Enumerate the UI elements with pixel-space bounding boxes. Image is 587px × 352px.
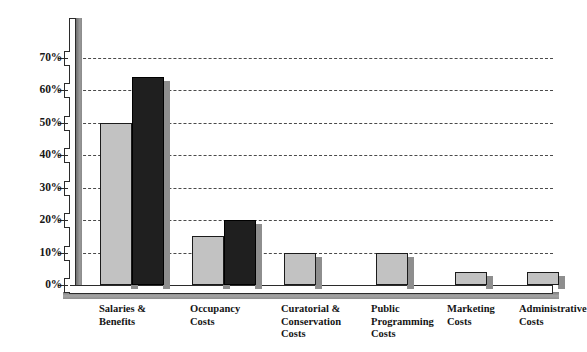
bar-curatorial-conservation-costs-series-1[interactable] [284,253,316,285]
y-tick-label-20: 20% [16,214,62,225]
category-label-salaries-benefits: Salaries & Benefits [99,303,146,328]
bar-administrative-costs-series-1[interactable] [527,272,559,285]
y-tick-label-10: 10% [16,247,62,258]
bar-salaries-benefits-series-1[interactable] [100,123,132,285]
y-tick-label-40: 40% [16,149,62,160]
y-axis-wall-face [69,18,76,288]
category-label-curatorial-conservation-costs: Curatorial & Conservation Costs [281,303,341,341]
bar-shadow-public-programming-costs-series-1 [407,257,414,289]
y-tick-label-0: 0% [16,279,62,290]
bar-salaries-benefits-series-2[interactable] [132,77,164,285]
bar-shadow-marketing-costs-series-1 [486,276,493,289]
y-axis-wall-side [76,18,82,290]
category-label-public-programming-costs: Public Programming Costs [371,303,434,341]
y-tick-label-60: 60% [16,84,62,95]
category-label-administrative-costs: Administrative Costs [519,303,587,328]
y-tick-label-50: 50% [16,117,62,128]
category-label-occupancy-costs: Occupancy Costs [190,303,240,328]
bar-marketing-costs-series-1[interactable] [455,272,487,285]
y-tick-label-70: 70% [16,52,62,63]
bar-shadow-curatorial-conservation-costs-series-1 [315,257,322,289]
bar-shadow-occupancy-costs-series-2 [255,224,262,289]
bar-occupancy-costs-series-1[interactable] [192,236,224,285]
bar-public-programming-costs-series-1[interactable] [376,253,408,285]
gridline-70 [68,58,553,59]
bar-occupancy-costs-series-2[interactable] [224,220,256,285]
x-axis-floor-face [69,285,553,294]
y-tick-label-30: 30% [16,182,62,193]
bar-shadow-salaries-benefits-series-2 [163,81,170,289]
category-label-marketing-costs: Marketing Costs [447,303,495,328]
bar-shadow-administrative-costs-series-1 [558,276,565,289]
